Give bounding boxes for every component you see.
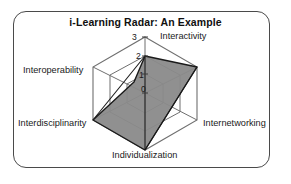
axis-label-interactivity: Interactivity: [160, 31, 206, 41]
axis-label-internetworking: Internetworking: [203, 118, 266, 128]
radar-chart-figure: i-Learning Radar: An Example: [0, 0, 291, 184]
radial-tick-0: 0: [141, 84, 146, 94]
axis-label-individualization: Individualization: [112, 150, 177, 160]
radial-tick-3: 3: [132, 32, 137, 42]
axis-label-interoperability: Interoperability: [23, 65, 83, 75]
axis-label-interdisciplinarity: Interdisciplinarity: [18, 118, 86, 128]
radial-tick-2: 2: [136, 51, 141, 61]
radial-tick-1: 1: [139, 70, 144, 80]
